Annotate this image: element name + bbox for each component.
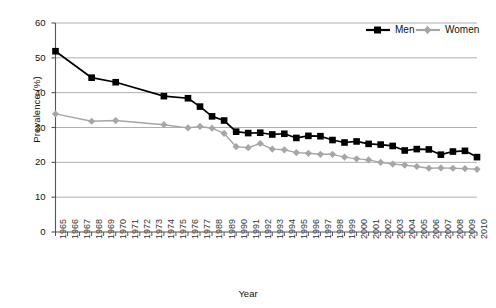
series-line-women <box>56 114 478 169</box>
data-point-women <box>281 146 288 153</box>
data-point-men <box>269 131 276 138</box>
data-point-men <box>293 135 300 142</box>
data-point-men <box>365 141 372 148</box>
data-point-women <box>437 164 444 171</box>
data-point-women <box>269 145 276 152</box>
prevalence-line-chart: Prevalence (%) Year 0102030405060 196519… <box>0 0 496 308</box>
data-point-women <box>425 165 432 172</box>
data-point-women <box>196 123 203 130</box>
data-point-men <box>281 130 288 137</box>
data-point-men <box>209 113 216 120</box>
data-point-women <box>293 149 300 156</box>
data-point-men <box>112 79 119 86</box>
data-point-men <box>317 133 324 140</box>
legend-label-women: Women <box>445 24 479 35</box>
data-point-women <box>184 124 191 131</box>
data-point-men <box>329 137 336 144</box>
data-point-men <box>221 117 228 124</box>
data-point-women <box>257 140 264 147</box>
data-point-women <box>245 144 252 151</box>
data-point-men <box>377 141 384 148</box>
legend-label-men: Men <box>395 24 414 35</box>
data-point-women <box>208 125 215 132</box>
data-point-men <box>185 95 192 102</box>
data-point-men <box>341 139 348 146</box>
data-point-men <box>438 151 445 158</box>
data-point-women <box>377 159 384 166</box>
series-line-men <box>56 51 478 157</box>
data-point-women <box>413 163 420 170</box>
legend-item-men: Men <box>366 24 414 35</box>
data-point-women <box>341 154 348 161</box>
data-point-men <box>426 146 433 153</box>
data-point-men <box>257 129 264 136</box>
plot-area <box>0 0 496 308</box>
legend-item-women: Women <box>416 24 479 35</box>
data-point-women <box>317 151 324 158</box>
data-point-men <box>52 48 59 55</box>
data-point-men <box>389 143 396 150</box>
data-point-men <box>413 146 420 153</box>
legend-marker-women <box>416 25 440 35</box>
data-point-women <box>305 150 312 157</box>
data-point-women <box>112 117 119 124</box>
data-point-men <box>161 93 168 100</box>
data-point-men <box>474 154 481 161</box>
data-point-men <box>305 133 312 140</box>
legend-marker-men <box>366 25 390 35</box>
data-point-men <box>88 74 95 81</box>
data-point-women <box>88 118 95 125</box>
data-point-men <box>353 138 360 145</box>
data-point-women <box>353 155 360 162</box>
data-point-women <box>473 166 480 173</box>
data-point-women <box>449 165 456 172</box>
data-point-men <box>245 130 252 137</box>
data-point-men <box>462 148 469 155</box>
data-point-men <box>233 128 240 135</box>
data-point-men <box>401 147 408 154</box>
data-point-women <box>52 110 59 117</box>
data-point-women <box>329 151 336 158</box>
data-point-women <box>461 165 468 172</box>
data-point-women <box>389 160 396 167</box>
data-point-men <box>450 148 457 155</box>
data-point-men <box>197 103 204 110</box>
